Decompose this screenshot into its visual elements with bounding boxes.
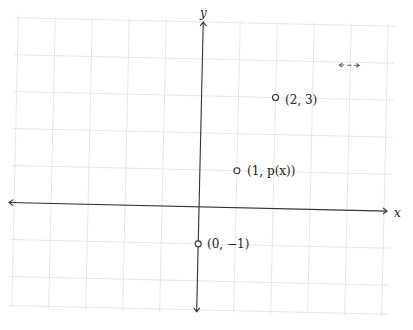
point-0-neg1 bbox=[195, 241, 201, 247]
point-label-1-px: (1, p(x)) bbox=[247, 164, 295, 178]
x-axis bbox=[9, 203, 387, 212]
point-label-2-3: (2, 3) bbox=[285, 93, 317, 107]
grid bbox=[7, 16, 396, 317]
point-label-0-neg1: (0, −1) bbox=[207, 237, 249, 251]
y-axis-label: y bbox=[199, 6, 207, 20]
point-2-3 bbox=[272, 94, 278, 100]
coordinate-plane: y x (2, 3) (1, p(x)) (0, −1) bbox=[0, 0, 413, 330]
y-axis bbox=[197, 22, 204, 312]
double-arrow-annotation bbox=[339, 63, 359, 67]
x-axis-label: x bbox=[394, 206, 401, 220]
point-1-px bbox=[234, 168, 240, 174]
